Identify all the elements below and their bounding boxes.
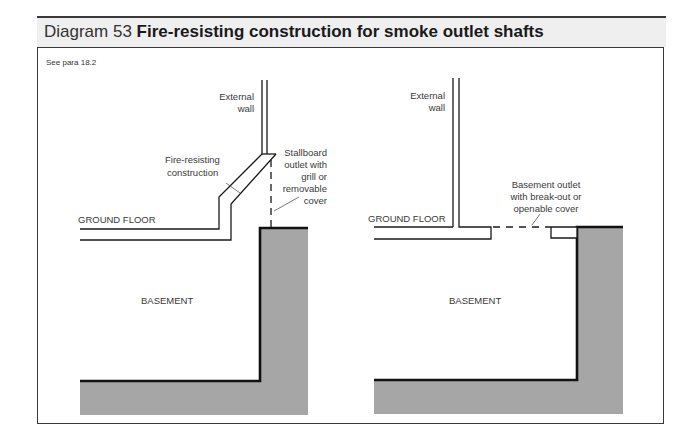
right-upstand (551, 227, 577, 238)
left-stallboard-label-2: outlet with (284, 159, 327, 170)
right-diagram: External wall Basement outlet with break… (368, 78, 623, 414)
left-diagram: External wall Fire-resisting constructio… (78, 80, 327, 415)
right-basement-label: BASEMENT (449, 295, 501, 306)
right-ground-floor-label: GROUND FLOOR (368, 213, 446, 224)
diagram-canvas: External wall Fire-resisting constructio… (0, 0, 696, 445)
left-external-wall-label-2: wall (237, 103, 254, 114)
left-stallboard-label-3: grill or (301, 171, 327, 182)
right-external-wall-label-2: wall (428, 102, 445, 113)
right-basement-outlet-label-1: Basement outlet (512, 179, 581, 190)
left-stallboard-leader (274, 197, 299, 211)
left-external-wall-label-1: External (219, 91, 254, 102)
right-basement-outlet-label-3: openable cover (514, 203, 579, 214)
left-ground-fill (80, 228, 308, 415)
left-stallboard-label-5: cover (304, 195, 327, 206)
right-external-wall-label-1: External (410, 90, 445, 101)
left-basement-label: BASEMENT (141, 295, 193, 306)
left-stallboard-label-4: removable (283, 183, 327, 194)
left-stallboard-label-1: Stallboard (284, 147, 327, 158)
left-fire-resisting-label-1: Fire-resisting (165, 154, 220, 165)
left-ground-floor-label: GROUND FLOOR (78, 214, 156, 225)
right-basement-outlet-label-2: with break-out or (510, 191, 582, 202)
right-outlet-leader (532, 214, 540, 225)
left-fire-resisting-label-2: construction (167, 167, 218, 178)
right-ground-fill (374, 227, 623, 414)
